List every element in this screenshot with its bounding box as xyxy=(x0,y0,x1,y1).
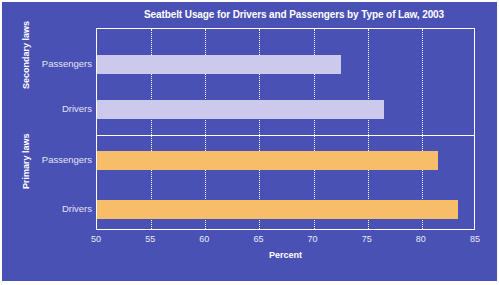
x-axis-title: Percent xyxy=(96,250,475,260)
group-divider xyxy=(97,135,474,136)
x-tick-label-65: 65 xyxy=(243,234,273,244)
x-tick-label-85: 85 xyxy=(460,234,490,244)
x-tick-label-60: 60 xyxy=(189,234,219,244)
plot-area xyxy=(96,28,475,230)
category-label-primary-laws-passengers: Passengers xyxy=(42,154,92,165)
x-tick-label-70: 70 xyxy=(298,234,328,244)
x-tick-label-50: 50 xyxy=(81,234,111,244)
x-tick-label-55: 55 xyxy=(135,234,165,244)
gridline-80 xyxy=(422,29,423,229)
x-tick-label-75: 75 xyxy=(352,234,382,244)
bar-secondary-laws-drivers xyxy=(97,100,384,119)
bar-primary-laws-drivers xyxy=(97,200,458,219)
group-label-primary-laws: Primary laws xyxy=(21,175,31,189)
chart-title: Seatbelt Usage for Drivers and Passenger… xyxy=(98,8,490,22)
chart-panel: Seatbelt Usage for Drivers and Passenger… xyxy=(2,2,497,281)
bar-secondary-laws-passengers xyxy=(97,55,341,74)
group-label-secondary-laws: Secondary laws xyxy=(21,75,31,89)
chart-figure: Seatbelt Usage for Drivers and Passenger… xyxy=(0,0,499,285)
x-tick-label-80: 80 xyxy=(406,234,436,244)
category-label-secondary-laws-drivers: Drivers xyxy=(62,103,92,114)
category-label-primary-laws-drivers: Drivers xyxy=(62,203,92,214)
bar-primary-laws-passengers xyxy=(97,151,438,170)
category-label-secondary-laws-passengers: Passengers xyxy=(42,58,92,69)
gridline-75 xyxy=(368,29,369,229)
